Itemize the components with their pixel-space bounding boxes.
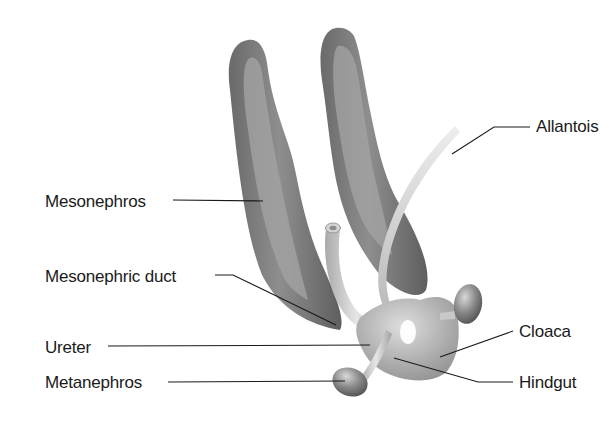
leader-ureter bbox=[108, 345, 370, 346]
label-cloaca: Cloaca bbox=[519, 323, 571, 340]
kidney-development-diagram: Allantois Mesonephros Mesonephric duct U… bbox=[0, 0, 609, 439]
label-hindgut: Hindgut bbox=[519, 374, 576, 391]
label-mesonephros: Mesonephros bbox=[45, 193, 146, 210]
leader-lines bbox=[108, 127, 530, 382]
label-allantois: Allantois bbox=[536, 118, 598, 135]
leader-allantois bbox=[452, 127, 530, 154]
label-metanephros: Metanephros bbox=[45, 374, 142, 391]
cloaca-opening bbox=[400, 320, 416, 344]
metanephros-kidney bbox=[328, 363, 371, 402]
label-mesonephric-duct: Mesonephric duct bbox=[45, 268, 176, 285]
label-ureter: Ureter bbox=[45, 339, 91, 356]
leader-metanephros bbox=[168, 381, 345, 382]
